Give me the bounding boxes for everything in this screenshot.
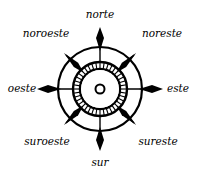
label-suroeste: suroeste — [24, 135, 70, 147]
label-norte: norte — [86, 8, 115, 20]
label-este: este — [167, 82, 189, 94]
label-noreste: noreste — [142, 27, 182, 39]
label-sureste: sureste — [138, 135, 177, 147]
label-sur: sur — [91, 156, 109, 168]
inner-disc — [81, 70, 119, 108]
compass-rose: norte noroeste noreste oeste este suroes… — [0, 0, 200, 177]
label-oeste: oeste — [8, 82, 36, 94]
label-noroeste: noroeste — [23, 27, 69, 39]
